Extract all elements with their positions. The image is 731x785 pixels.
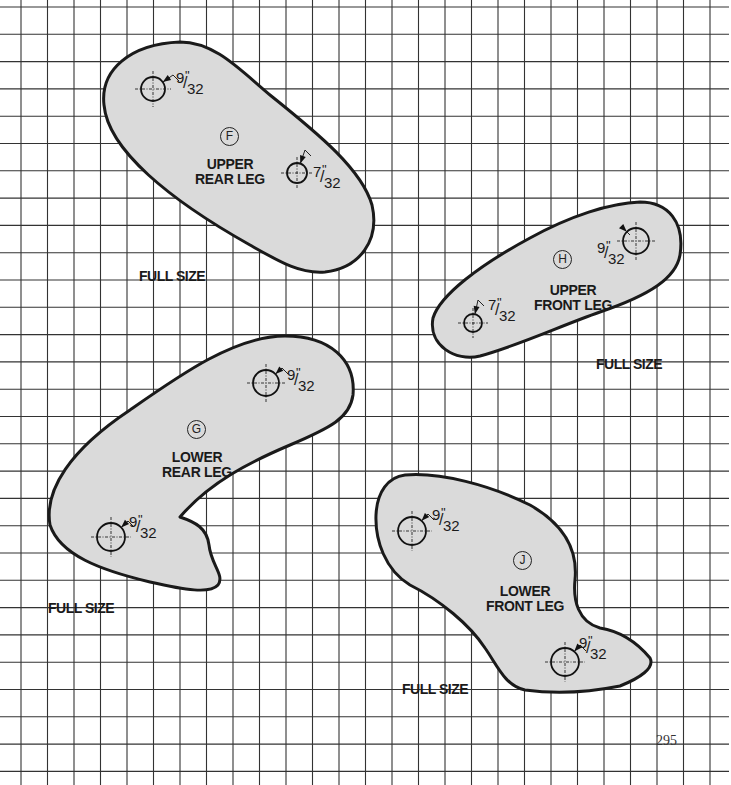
hole-size-J1: 9"/32 xyxy=(432,508,466,538)
hole-size-H2: 7"/32 xyxy=(488,298,522,328)
hole-size-F2: 7"/32 xyxy=(313,165,347,195)
pattern-sheet xyxy=(0,0,731,785)
scale-label-G: FULL SIZE xyxy=(48,600,114,616)
label-line-1: LOWER xyxy=(147,450,247,465)
hole-size-G1: 9"/32 xyxy=(287,368,321,398)
page-number: 295 xyxy=(656,733,677,749)
hole-size-G2: 9"/32 xyxy=(129,515,163,545)
label-line-1: LOWER xyxy=(470,584,580,599)
label-lower-front-leg: LOWER FRONT LEG xyxy=(470,584,580,614)
label-line-2: FRONT LEG xyxy=(470,599,580,614)
badge-J: J xyxy=(513,551,532,570)
label-line-2: FRONT LEG xyxy=(518,298,628,313)
label-line-2: REAR LEG xyxy=(180,172,280,187)
hole-size-H1: 9"/32 xyxy=(597,241,631,271)
label-line-1: UPPER xyxy=(518,283,628,298)
scale-label-F: FULL SIZE xyxy=(139,268,205,284)
hole-size-J2: 9"/32 xyxy=(579,636,613,666)
hole-size-F1: 9"/32 xyxy=(176,71,210,101)
label-upper-rear-leg: UPPER REAR LEG xyxy=(180,157,280,187)
label-line-2: REAR LEG xyxy=(147,465,247,480)
scale-label-J: FULL SIZE xyxy=(402,681,468,697)
badge-G: G xyxy=(187,420,206,439)
label-upper-front-leg: UPPER FRONT LEG xyxy=(518,283,628,313)
scale-label-H: FULL SIZE xyxy=(596,356,662,372)
label-line-1: UPPER xyxy=(180,157,280,172)
label-lower-rear-leg: LOWER REAR LEG xyxy=(147,450,247,480)
badge-H: H xyxy=(553,250,572,269)
badge-F: F xyxy=(220,127,239,146)
